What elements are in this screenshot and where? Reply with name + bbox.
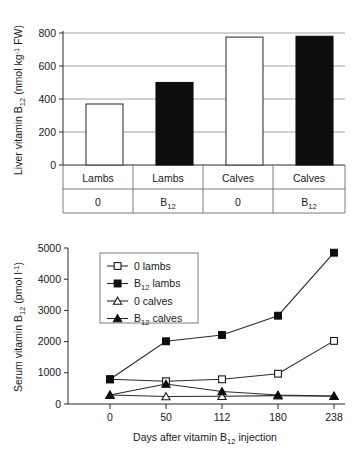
liver-bar-chart-svg: Liver vitamin B12 (nmol kg-1 FW) 800 600… xyxy=(0,0,363,222)
liver-ylabel-sub: 12 xyxy=(18,98,27,106)
serum-ytick-5000: 5000 xyxy=(38,242,62,254)
bar-calves-b12 xyxy=(296,36,333,165)
bar-lambs-control xyxy=(86,104,123,165)
series-b12-lambs-point-1 xyxy=(163,338,170,345)
legend-label-0-calves: 0 calves xyxy=(134,295,173,307)
serum-xtick-50: 50 xyxy=(160,411,172,423)
serum-ylabel-prefix: Serum vitamin B xyxy=(12,315,24,392)
serum-y-axis xyxy=(64,248,68,404)
serum-ytick-1000: 1000 xyxy=(38,366,62,378)
liver-y-axis-title: Liver vitamin B12 (nmol kg-1 FW) xyxy=(12,25,27,175)
series-0-lambs-line xyxy=(110,341,334,381)
liver-y-tick-labels: 800 600 400 200 0 xyxy=(38,27,56,171)
bar-calves-control xyxy=(226,37,263,165)
serum-line-chart-panel: Serum vitamin B12 (pmol l-1) 5000 4000 3… xyxy=(0,222,363,462)
legend-marker-filled-square xyxy=(114,280,121,287)
series-0-lambs-point-4 xyxy=(331,338,338,345)
liver-ytick-400: 400 xyxy=(38,93,56,105)
serum-xtick-238: 238 xyxy=(325,411,343,423)
cat-treatment-0: 0 xyxy=(95,196,101,208)
series-0-lambs xyxy=(107,338,338,385)
liver-ytick-0: 0 xyxy=(50,159,56,171)
serum-ylabel-suffix: ) xyxy=(12,262,24,266)
liver-ylabel-prefix: Liver vitamin B xyxy=(12,106,24,175)
serum-ylabel-sub: 12 xyxy=(18,307,27,315)
serum-xlabel-prefix: Days after vitamin B xyxy=(133,431,227,443)
serum-xtick-180: 180 xyxy=(269,411,287,423)
serum-x-axis xyxy=(68,404,345,409)
liver-y-axis xyxy=(59,31,63,165)
liver-category-table: Lambs Lambs Calves Calves 0 B12 0 B12 xyxy=(63,165,345,213)
liver-ytick-200: 200 xyxy=(38,126,56,138)
legend-label-0-lambs: 0 lambs xyxy=(134,260,171,272)
series-0-lambs-point-2 xyxy=(219,376,226,383)
series-0-lambs-point-3 xyxy=(275,370,282,377)
cat-species-2: Calves xyxy=(222,172,254,184)
svg-text:Liver vitamin B12 (nmol kg-1 F: Liver vitamin B12 (nmol kg-1 FW) xyxy=(12,25,27,175)
liver-ylabel-mid: (nmol kg xyxy=(12,54,24,97)
liver-ytick-600: 600 xyxy=(38,60,56,72)
serum-ylabel-mid: (pmol l xyxy=(12,272,24,306)
serum-ytick-0: 0 xyxy=(55,398,61,410)
serum-legend: 0 lambs B12 lambs 0 calves xyxy=(100,253,198,327)
liver-ytick-800: 800 xyxy=(38,27,56,39)
series-b12-lambs-point-4 xyxy=(331,249,338,256)
serum-xlabel-suffix: injection xyxy=(235,431,277,443)
cat-treatment-1: B12 xyxy=(160,196,175,211)
serum-x-tick-labels: 0 50 112 180 238 xyxy=(107,411,343,423)
serum-ylabel-sup: -1 xyxy=(12,265,21,272)
serum-line-chart-svg: Serum vitamin B12 (pmol l-1) 5000 4000 3… xyxy=(0,222,363,462)
liver-bars xyxy=(86,36,333,165)
liver-bar-chart-panel: Liver vitamin B12 (nmol kg-1 FW) 800 600… xyxy=(0,0,363,222)
cat-species-0: Lambs xyxy=(82,172,114,184)
serum-y-tick-labels: 5000 4000 3000 2000 1000 0 xyxy=(38,242,62,410)
svg-text:Serum vitamin B12 (pmol l-1): Serum vitamin B12 (pmol l-1) xyxy=(12,262,27,392)
cat-species-1: Lambs xyxy=(152,172,184,184)
figure-container: Liver vitamin B12 (nmol kg-1 FW) 800 600… xyxy=(0,0,363,462)
serum-xtick-0: 0 xyxy=(107,411,113,423)
cat-treatment-3: B12 xyxy=(301,196,316,211)
liver-ylabel-suffix: FW) xyxy=(12,25,24,48)
liver-ylabel-sup: -1 xyxy=(12,48,21,55)
cat-treatment-2: 0 xyxy=(235,196,241,208)
serum-ytick-4000: 4000 xyxy=(38,273,62,285)
series-b12-lambs-point-2 xyxy=(219,332,226,339)
serum-xlabel-sub: 12 xyxy=(227,437,235,446)
serum-xtick-112: 112 xyxy=(214,411,231,423)
series-b12-lambs-point-3 xyxy=(275,312,282,319)
legend-marker-open-square xyxy=(114,263,121,270)
series-b12-lambs-point-0 xyxy=(107,376,114,383)
serum-y-axis-title: Serum vitamin B12 (pmol l-1) xyxy=(12,262,27,392)
bar-lambs-b12 xyxy=(156,83,193,166)
serum-x-axis-title: Days after vitamin B12 injection xyxy=(133,431,277,446)
serum-ytick-2000: 2000 xyxy=(38,335,62,347)
cat-species-3: Calves xyxy=(293,172,325,184)
serum-ytick-3000: 3000 xyxy=(38,304,62,316)
